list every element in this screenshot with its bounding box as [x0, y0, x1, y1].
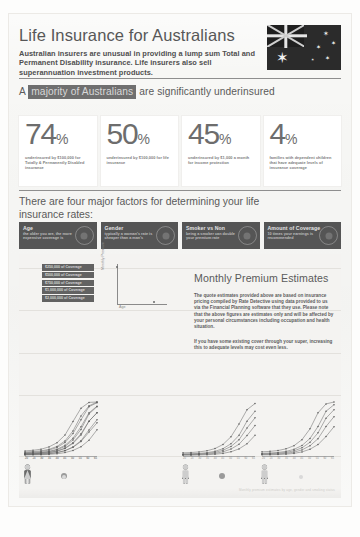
x-tick-label: 40 — [293, 457, 296, 460]
smoker-icon — [62, 475, 66, 479]
x-tick-label: 30 — [277, 457, 280, 460]
header-subtitle: Australian insurers are unusual in provi… — [19, 49, 264, 77]
x-tick-label: 25 — [33, 457, 36, 460]
divider-top — [19, 78, 341, 79]
stat-caption: underinsured by $1,000 a month for incom… — [188, 155, 255, 165]
x-tick-label: 55 — [79, 457, 82, 460]
factor-title: Gender — [105, 225, 124, 231]
union-jack-diagonals — [267, 25, 304, 47]
axis-diagram: Monthly Premium Age — [107, 264, 167, 312]
factor-desc: being a smoker can double your premium r… — [186, 232, 244, 242]
calendar-icon — [75, 226, 94, 245]
percent-sign: % — [285, 131, 297, 147]
panel-legend-icons — [23, 464, 99, 482]
x-axis-label: Age — [119, 305, 125, 309]
x-tick-label: 35 — [206, 457, 209, 460]
header: Life Insurance for Australians Australia… — [19, 26, 264, 77]
x-tick-label: 40 — [214, 457, 217, 460]
southern-cross-star-1: ✶ — [323, 30, 329, 37]
page-title: Life Insurance for Australians — [19, 26, 264, 45]
gender-icon — [156, 226, 175, 245]
x-tick-label: 60 — [244, 457, 247, 460]
statement-highlight: majority of Australians — [28, 85, 136, 99]
x-tick-label: 60 — [86, 457, 89, 460]
axis-marker — [116, 266, 118, 268]
southern-cross-star-4: ✶ — [325, 55, 330, 61]
x-tick-label: 20 — [262, 457, 265, 460]
factor-title: Age — [23, 225, 33, 231]
chart-panel: $250,000 of Coverage $500,000 of Coverag… — [19, 254, 341, 498]
y-axis-label: Monthly Premium — [101, 242, 105, 270]
legend-item[interactable]: $500,000 of Coverage — [42, 272, 94, 279]
southern-cross-star-3: ✶ — [316, 44, 321, 50]
x-tick-label: 65 — [94, 457, 97, 460]
estimates-title: Monthly Premium Estimates — [194, 272, 334, 284]
stat-caption: underinsured by $100,000 for Totally & P… — [25, 155, 92, 170]
panel-legend-icons — [260, 464, 336, 482]
gridline — [19, 395, 341, 396]
x-tick-label: 20 — [25, 457, 28, 460]
stat-value: 45% — [188, 119, 231, 154]
factor-cards: Age the older you are, the more expensiv… — [19, 222, 341, 249]
estimates-paragraph-2: If you have some existing cover through … — [194, 339, 334, 351]
statement-suffix: are significantly underinsured — [139, 86, 275, 97]
x-tick-label: 60 — [323, 457, 326, 460]
x-tick-label: 45 — [221, 457, 224, 460]
x-tick-label: 20 — [183, 457, 186, 460]
stat-value: 50% — [107, 119, 150, 154]
coverage-icon — [319, 226, 338, 245]
premium-chart-female-smoker: 20253035404550556065 — [260, 400, 336, 494]
stat-caption: underinsured by $100,000 for life insura… — [107, 155, 174, 165]
premium-chart-female-nonsmoker: 20253035404550556065 — [181, 400, 257, 494]
estimates-block: Monthly Premium Estimates The quote esti… — [194, 272, 334, 352]
stat-card: 74% underinsured by $100,000 for Totally… — [19, 116, 97, 186]
statistics-row: 74% underinsured by $100,000 for Totally… — [19, 116, 341, 186]
factor-card-gender[interactable]: Gender typically a woman's rate is cheap… — [101, 222, 179, 249]
x-tick-labels: 20253035404550556065 — [25, 457, 97, 460]
factor-desc: typically a woman's rate is cheaper than… — [105, 232, 163, 242]
small-multiples: 20253035404550556065 2025303540455055606… — [23, 400, 337, 494]
panel-legend-icons — [181, 464, 257, 482]
page-edge-shadow — [19, 488, 341, 498]
australian-flag-icon: ✶ ✶ ✶ ✶ ✶ ✶ — [267, 25, 341, 70]
stat-caption: families with dependent children that ha… — [270, 155, 337, 170]
percent-sign: % — [219, 131, 231, 147]
stat-value: 4% — [270, 119, 297, 154]
southern-cross-star-5: ✶ — [311, 58, 314, 62]
estimates-paragraph-1: The quote estimates provided above are b… — [194, 293, 334, 330]
factors-title: There are four major factors for determi… — [19, 196, 279, 221]
factor-title: Smoker vs Non — [186, 225, 225, 231]
x-tick-label: 50 — [308, 457, 311, 460]
x-tick-label: 65 — [252, 457, 255, 460]
legend-label: $250,000 of Coverage — [45, 265, 82, 269]
legend-item[interactable]: $1,000,000 of Coverage — [42, 287, 94, 294]
factor-title: Amount of Coverage — [268, 225, 321, 231]
commonwealth-star-icon: ✶ — [276, 50, 289, 65]
stat-card: 45% underinsured by $1,000 a month for i… — [182, 116, 260, 186]
x-tick-labels: 20253035404550556065 — [262, 457, 334, 460]
legend-item[interactable]: $2,000,000 of Coverage — [42, 295, 94, 302]
non-smoker-icon — [219, 473, 225, 479]
stat-card: 4% families with dependent children that… — [264, 116, 342, 186]
stat-card: 50% underinsured by $100,000 for life in… — [101, 116, 179, 186]
factor-card-age[interactable]: Age the older you are, the more expensiv… — [19, 222, 97, 249]
x-tick-label: 55 — [237, 457, 240, 460]
stat-value: 74% — [25, 119, 68, 154]
factor-desc: 10 times your earnings is recommended — [268, 232, 326, 242]
legend-item[interactable]: $750,000 of Coverage — [42, 280, 94, 287]
premium-chart-male-smoker: 20253035404550556065 — [23, 400, 99, 494]
cigarette-icon — [238, 226, 257, 245]
gridline — [19, 353, 341, 354]
statement-prefix: A — [19, 86, 25, 97]
legend-item[interactable]: $250,000 of Coverage — [42, 264, 94, 271]
divider-middle — [19, 190, 341, 191]
axis-marker — [153, 301, 155, 303]
factor-card-coverage[interactable]: Amount of Coverage 10 times your earning… — [264, 222, 342, 249]
x-tick-label: 30 — [198, 457, 201, 460]
factor-card-smoker[interactable]: Smoker vs Non being a smoker can double … — [182, 222, 260, 249]
chart-legend: $250,000 of Coverage $500,000 of Coverag… — [42, 264, 94, 303]
legend-label: $1,000,000 of Coverage — [45, 288, 85, 292]
x-tick-label: 35 — [48, 457, 51, 460]
smoker-icon — [299, 475, 303, 479]
x-tick-label: 50 — [71, 457, 74, 460]
